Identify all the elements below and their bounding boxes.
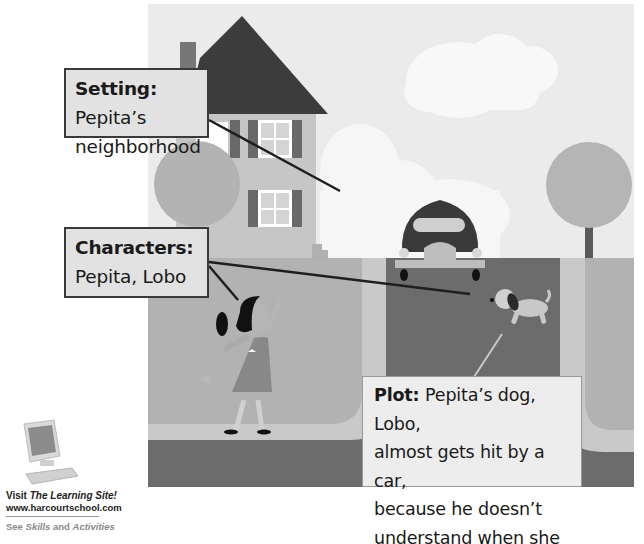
skills-activities-link[interactable]: See Skills and Activities [6,521,115,532]
lawn [585,258,634,430]
setting-label: Setting: Pepita’s neighborhood [64,68,209,138]
visit-site-link[interactable]: Visit The Learning Site! [6,490,117,501]
characters-text: Pepita, Lobo [75,266,186,287]
site-url-link[interactable]: www.harcourtschool.com [6,502,122,513]
plot-label: Plot: Pepita’s dog, Lobo, almost gets hi… [362,376,582,487]
divider [6,516,99,517]
plot-heading: Plot: [374,385,425,405]
site-name: The Learning Site! [30,490,117,501]
characters-heading: Characters: [75,237,194,258]
setting-heading: Setting: [75,78,157,99]
plot-text-line4: understand when she [374,528,560,544]
plot-text-line2: almost gets hit by a car, [374,442,544,491]
setting-text-line2: neighborhood [75,136,201,157]
setting-text: Pepita’s [75,107,146,128]
computer-icon [24,420,78,484]
plot-text-line3: because he doesn’t [374,499,542,519]
characters-label: Characters: Pepita, Lobo [64,227,209,298]
